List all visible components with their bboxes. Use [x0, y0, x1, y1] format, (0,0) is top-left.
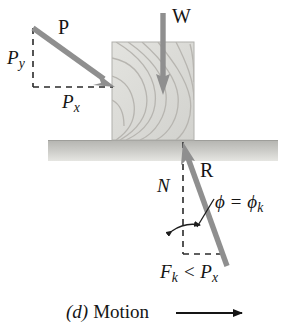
label-fk-base: F — [160, 261, 172, 282]
label-friction-relation: Fk < Px — [160, 262, 218, 285]
label-fk-rest: < P — [178, 261, 212, 282]
friction-angle-arc — [172, 224, 200, 231]
caption-motion-text: Motion — [93, 301, 149, 322]
label-py-subscript: y — [19, 56, 25, 71]
label-applied-force: P — [58, 17, 69, 37]
label-py-base: P — [7, 47, 19, 68]
label-py-component: Py — [7, 48, 25, 71]
diagram-canvas — [0, 0, 295, 328]
applied-force-vector — [33, 28, 115, 87]
wood-block — [112, 42, 194, 140]
label-px-base: P — [62, 91, 74, 112]
label-px-component: Px — [62, 92, 80, 115]
label-px-subscript: x — [74, 100, 80, 115]
figure-caption: (d)Motion — [66, 302, 149, 321]
label-phi-base: ϕ = ϕ — [215, 191, 257, 212]
label-weight: W — [172, 6, 191, 26]
label-phi-subscript: k — [257, 200, 263, 215]
label-resultant: R — [200, 160, 213, 180]
caption-part-label: (d) — [66, 301, 88, 322]
ground-surface — [48, 140, 278, 161]
label-normal: N — [157, 176, 170, 195]
label-friction-angle: ϕ = ϕk — [215, 192, 263, 215]
friction-free-body-diagram: P W Py Px R N ϕ = ϕk Fk < Px (d)Motion — [0, 0, 295, 328]
label-fk-rest-subscript: x — [212, 270, 218, 285]
